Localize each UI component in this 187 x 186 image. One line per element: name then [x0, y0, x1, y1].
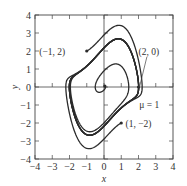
y-tick-label: −3	[20, 136, 31, 147]
x-tick-labels: −4−3−2−101234	[30, 161, 176, 172]
x-axis-title: x	[101, 173, 107, 184]
y-tick-label: 3	[26, 28, 31, 39]
x-tick-label: 4	[171, 161, 176, 172]
y-tick-label: −4	[20, 154, 31, 165]
y-tick-label: 1	[26, 64, 31, 75]
x-tick-label: −4	[30, 161, 41, 172]
x-tick-label: −1	[81, 161, 92, 172]
y-tick-labels: −4−3−2−101234	[20, 10, 31, 165]
annotation-label: (2, 0)	[139, 47, 160, 58]
annotation-label: (−1, 2)	[39, 47, 65, 58]
x-tick-label: 2	[136, 161, 141, 172]
start-point-dot	[120, 121, 123, 124]
start-point-dot	[103, 85, 106, 88]
start-point-dot	[85, 49, 88, 52]
y-tick-label: 0	[26, 82, 31, 93]
x-tick-label: 0	[102, 161, 107, 172]
y-tick-label: 2	[26, 46, 31, 57]
x-tick-label: −2	[64, 161, 75, 172]
y-tick-label: −2	[20, 118, 31, 129]
x-tick-label: 3	[153, 161, 158, 172]
annotation-label: (1, −2)	[126, 119, 152, 130]
y-tick-label: −1	[20, 100, 31, 111]
phase-portrait-chart: −4−3−2−101234 −4−3−2−101234 (−1, 2)(2, 0…	[0, 0, 187, 186]
annotation-label: μ = 1	[139, 100, 159, 110]
y-tick-label: 4	[26, 10, 31, 21]
x-tick-label: −3	[47, 161, 58, 172]
x-tick-label: 1	[119, 161, 124, 172]
y-axis-title: y	[9, 84, 20, 90]
